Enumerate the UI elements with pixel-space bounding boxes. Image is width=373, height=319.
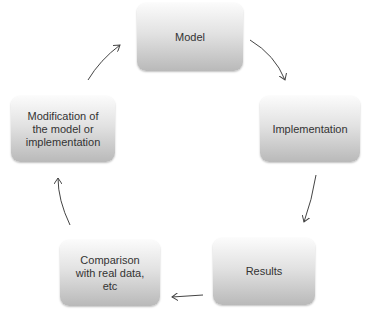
node-comparison: Comparison with real data, etc	[60, 240, 160, 306]
node-modification: Modification of the model or implementat…	[11, 96, 115, 162]
arrow-comparison-to-modification	[58, 178, 70, 225]
arrow-model-to-implementation	[250, 40, 285, 80]
node-implementation: Implementation	[260, 96, 360, 162]
arrow-modification-to-model	[88, 45, 120, 80]
arrow-results-to-comparison	[172, 295, 203, 297]
node-model: Model	[137, 3, 243, 71]
node-results: Results	[213, 238, 315, 305]
arrow-implementation-to-results	[304, 175, 316, 222]
